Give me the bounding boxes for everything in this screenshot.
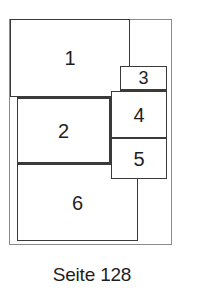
box-label-4: 4 <box>133 105 144 125</box>
layout-box-5: 5 <box>111 138 167 179</box>
layout-box-4: 4 <box>111 91 167 139</box>
layout-box-1: 1 <box>10 19 130 97</box>
page-caption: Seite 128 <box>0 264 184 286</box>
layout-box-3: 3 <box>120 66 167 91</box>
layout-box-2: 2 <box>17 97 111 164</box>
box-label-3: 3 <box>138 69 148 87</box>
box-label-1: 1 <box>64 48 75 68</box>
box-label-5: 5 <box>133 149 144 169</box>
box-label-2: 2 <box>58 121 69 141</box>
box-label-6: 6 <box>72 193 83 213</box>
